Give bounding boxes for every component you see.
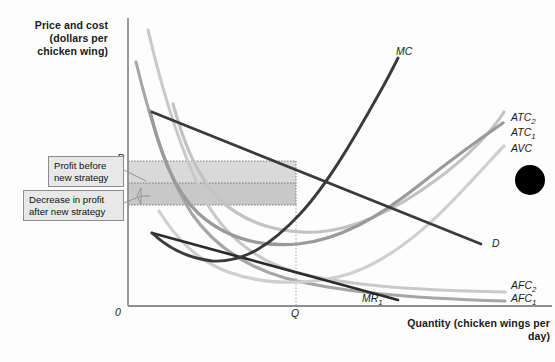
callout-decrease-after: Decrease in profit after new strategy bbox=[23, 190, 124, 221]
quantity-tick-label-Q: Q bbox=[291, 307, 299, 319]
origin-label: 0 bbox=[115, 306, 121, 318]
curve-label-mr1-sub: 1 bbox=[378, 298, 382, 307]
curve-label-atc2-sub: 2 bbox=[531, 117, 535, 126]
shaded-region-profit-before bbox=[128, 161, 296, 183]
curve-label-d: D bbox=[492, 237, 500, 249]
curve-label-afc1-base: AFC bbox=[511, 292, 532, 304]
curve-label-atc2-base: ATC bbox=[511, 111, 531, 123]
figure-canvas: Price and cost (dollars per chicken wing… bbox=[0, 0, 555, 362]
curve-label-afc1-sub: 1 bbox=[532, 298, 536, 307]
curve-label-mr1: MR1 bbox=[362, 292, 383, 307]
curve-mc bbox=[152, 58, 398, 261]
callout-profit-before: Profit before new strategy bbox=[48, 156, 124, 187]
y-axis-title: Price and cost (dollars per chicken wing… bbox=[26, 19, 108, 58]
curve-label-atc1-base: ATC bbox=[511, 126, 531, 138]
decorative-circle-marker bbox=[515, 165, 545, 195]
curve-label-afc2-base: AFC bbox=[511, 279, 532, 291]
curve-label-atc1-sub: 1 bbox=[531, 132, 535, 141]
x-axis-title: Quantity (chicken wings per day) bbox=[398, 317, 550, 343]
curve-label-atc2: ATC2 bbox=[511, 111, 536, 126]
shaded-region-decrease-after bbox=[128, 183, 296, 205]
curve-label-mr1-base: MR bbox=[362, 292, 378, 304]
curve-label-avc: AVC bbox=[511, 142, 532, 154]
curve-label-atc1: ATC1 bbox=[511, 126, 536, 141]
curve-label-mc: MC bbox=[396, 45, 412, 57]
curve-label-afc1: AFC1 bbox=[511, 292, 536, 307]
